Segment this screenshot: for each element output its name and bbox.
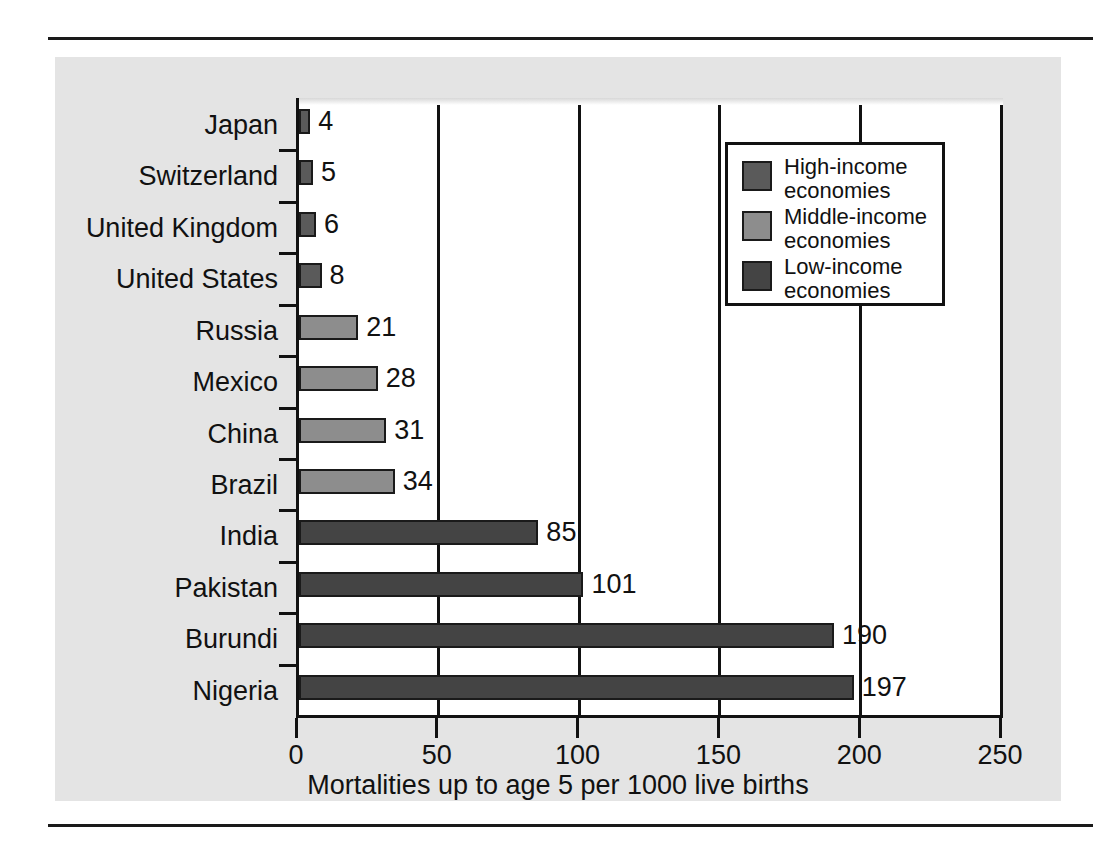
y-axis-tick	[279, 149, 296, 152]
category-label-switzerland: Switzerland	[18, 161, 278, 191]
bar-row: 31	[299, 407, 1003, 455]
bar-value-label: 85	[546, 516, 576, 548]
bar-row: 28	[299, 355, 1003, 403]
bar-nigeria[interactable]	[299, 675, 854, 700]
bar-row: 85	[299, 509, 1003, 557]
y-axis-tick	[279, 201, 296, 204]
bar-burundi[interactable]	[299, 623, 834, 648]
x-axis-tick-label-200: 200	[814, 739, 904, 771]
category-label-united-states: United States	[18, 264, 278, 294]
bar-value-label: 8	[330, 259, 345, 291]
bar-row: 197	[299, 664, 1003, 712]
bar-china[interactable]	[299, 418, 386, 443]
legend-label-line2: economies	[784, 229, 927, 253]
legend-label: High-incomeeconomies	[784, 155, 908, 203]
legend-label-line2: economies	[784, 179, 908, 203]
bar-brazil[interactable]	[299, 469, 395, 494]
bar-value-label: 101	[591, 568, 636, 600]
bar-japan[interactable]	[299, 109, 310, 134]
bar-row: 4	[299, 98, 1003, 146]
bar-row: 21	[299, 304, 1003, 352]
x-axis-tick-label-0: 0	[251, 739, 341, 771]
category-label-mexico: Mexico	[18, 367, 278, 397]
y-axis-tick	[279, 304, 296, 307]
category-label-india: India	[18, 521, 278, 551]
x-axis-tick-label-50: 50	[392, 739, 482, 771]
bar-row: 101	[299, 561, 1003, 609]
legend-label-line1: Low-income	[784, 255, 903, 279]
y-axis-tick	[279, 407, 296, 410]
x-axis-tick-label-100: 100	[533, 739, 623, 771]
bar-value-label: 190	[842, 619, 887, 651]
category-label-pakistan: Pakistan	[18, 573, 278, 603]
y-axis-tick	[279, 612, 296, 615]
bar-switzerland[interactable]	[299, 160, 313, 185]
x-axis-tick-200	[858, 718, 861, 738]
legend-swatch-high-income	[742, 161, 772, 191]
x-axis-tick-label-150: 150	[673, 739, 763, 771]
category-label-russia: Russia	[18, 316, 278, 346]
bar-pakistan[interactable]	[299, 572, 583, 597]
bar-value-label: 28	[386, 362, 416, 394]
legend-swatch-middle-income	[742, 211, 772, 241]
bar-united-kingdom[interactable]	[299, 212, 316, 237]
legend-label: Low-incomeeconomies	[784, 255, 903, 303]
figure-panel: 45682128313485101190197 JapanSwitzerland…	[55, 57, 1061, 801]
bar-india[interactable]	[299, 520, 538, 545]
category-label-brazil: Brazil	[18, 470, 278, 500]
page-rule-top	[48, 37, 1093, 40]
y-axis-tick	[279, 509, 296, 512]
legend-swatch-low-income	[742, 261, 772, 291]
category-label-united-kingdom: United Kingdom	[18, 213, 278, 243]
y-axis-tick	[279, 355, 296, 358]
bar-united-states[interactable]	[299, 263, 322, 288]
bar-value-label: 31	[394, 414, 424, 446]
y-axis-tick	[279, 664, 296, 667]
x-axis-tick-150	[717, 718, 720, 738]
bar-row: 34	[299, 458, 1003, 506]
x-axis-tick-label-250: 250	[955, 739, 1045, 771]
bar-row: 190	[299, 612, 1003, 660]
bar-value-label: 4	[318, 105, 333, 137]
category-label-burundi: Burundi	[18, 624, 278, 654]
x-axis-tick-0	[295, 718, 298, 738]
category-label-japan: Japan	[18, 110, 278, 140]
bar-value-label: 21	[366, 311, 396, 343]
legend-label: Middle-incomeeconomies	[784, 205, 927, 253]
bar-russia[interactable]	[299, 315, 358, 340]
legend-label-line1: Middle-income	[784, 205, 927, 229]
chart-legend: High-incomeeconomiesMiddle-incomeeconomi…	[725, 142, 945, 306]
y-axis-tick	[279, 252, 296, 255]
category-label-china: China	[18, 419, 278, 449]
bar-value-label: 197	[862, 671, 907, 703]
x-axis-tick-250	[999, 718, 1002, 738]
x-axis-tick-50	[435, 718, 438, 738]
legend-label-line1: High-income	[784, 155, 908, 179]
bar-mexico[interactable]	[299, 366, 378, 391]
page-rule-bottom	[48, 824, 1093, 827]
legend-item-high-income[interactable]: High-incomeeconomies	[742, 155, 908, 203]
y-axis-tick	[279, 561, 296, 564]
category-label-nigeria: Nigeria	[18, 676, 278, 706]
legend-label-line2: economies	[784, 279, 903, 303]
x-axis-title: Mortalities up to age 5 per 1000 live bi…	[55, 770, 1061, 801]
y-axis-tick	[279, 458, 296, 461]
x-axis-tick-100	[576, 718, 579, 738]
legend-item-middle-income[interactable]: Middle-incomeeconomies	[742, 205, 927, 253]
bar-value-label: 6	[324, 208, 339, 240]
bar-value-label: 5	[321, 156, 336, 188]
bar-value-label: 34	[403, 465, 433, 497]
legend-item-low-income[interactable]: Low-incomeeconomies	[742, 255, 903, 303]
